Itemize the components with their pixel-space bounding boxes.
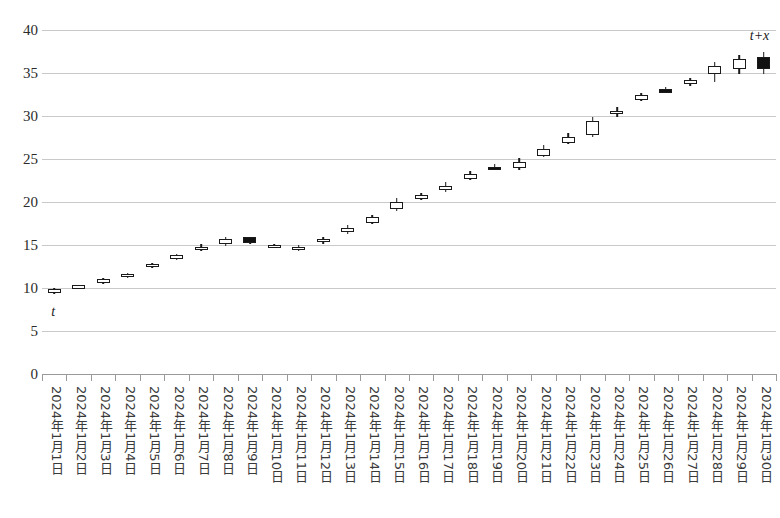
x-axis-tick-label: 2024年1月25日 [634, 386, 653, 483]
candlestick-body [48, 289, 61, 293]
x-axis-tickmark [703, 374, 704, 381]
candlestick-body [439, 186, 452, 190]
x-axis-tickmark [360, 374, 361, 381]
x-axis-tickmark [213, 374, 214, 381]
x-axis-tick-label: 2024年1月23日 [586, 386, 605, 483]
x-axis-tick-label: 2024年1月3日 [96, 386, 115, 475]
x-axis-tick-label: 2024年1月24日 [610, 386, 629, 483]
x-axis-tick-label: 2024年1月8日 [219, 386, 238, 475]
candlestick-body [219, 239, 232, 244]
candlestick-body [390, 202, 403, 209]
x-axis-tick-label: 2024年1月1日 [47, 386, 66, 475]
x-axis-tick-label: 2024年1月14日 [365, 386, 384, 483]
x-axis-tick-label: 2024年1月12日 [316, 386, 335, 483]
x-axis-tickmark [458, 374, 459, 381]
x-axis-tickmark [189, 374, 190, 381]
y-axis-tick-label: 25 [4, 152, 38, 167]
x-axis-tick-label: 2024年1月6日 [170, 386, 189, 475]
x-axis-tickmark [556, 374, 557, 381]
candlestick-body [684, 80, 697, 84]
candlestick-body [708, 66, 721, 74]
candlestick-body [72, 285, 85, 288]
candlestick-body [268, 245, 281, 248]
x-axis-tick-label: 2024年1月7日 [194, 386, 213, 475]
candlestick-body [170, 255, 183, 258]
x-axis-tick-label: 2024年1月20日 [512, 386, 531, 483]
candlestick-body [317, 239, 330, 242]
x-axis-tick-label: 2024年1月15日 [390, 386, 409, 483]
x-axis-tickmark [580, 374, 581, 381]
y-axis-tick-label: 40 [4, 23, 38, 38]
x-axis-tickmark [262, 374, 263, 381]
y-axis-tick-label: 0 [4, 367, 38, 382]
candlestick-body [562, 137, 575, 143]
y-axis-tick-label: 35 [4, 66, 38, 81]
x-axis-tickmark [752, 374, 753, 381]
x-axis-tick-label: 2024年1月26日 [659, 386, 678, 483]
chart-annotation: t [51, 304, 55, 320]
y-axis-tick-label: 30 [4, 109, 38, 124]
x-axis-tick-label: 2024年1月11日 [292, 386, 311, 483]
x-axis-tickmark [605, 374, 606, 381]
x-axis-tickmark [678, 374, 679, 381]
x-axis-tick-label: 2024年1月4日 [121, 386, 140, 475]
x-axis-tick-label: 2024年1月2日 [72, 386, 91, 475]
x-axis-tick-label: 2024年1月13日 [341, 386, 360, 483]
candlestick-body [488, 167, 501, 170]
candlestick-body [415, 195, 428, 198]
candlestick-body [464, 174, 477, 179]
x-axis-tickmark [238, 374, 239, 381]
x-axis-tick-label: 2024年1月17日 [439, 386, 458, 483]
y-axis-tick-label: 15 [4, 238, 38, 253]
x-axis-tick-label: 2024年1月28日 [708, 386, 727, 483]
x-axis-tickmark [287, 374, 288, 381]
candlestick-body [366, 217, 379, 222]
candlestick-body [292, 247, 305, 250]
candlestick-body [146, 264, 159, 267]
x-axis-tickmark [115, 374, 116, 381]
x-axis-tickmark [531, 374, 532, 381]
chart-annotation: t+x [750, 28, 770, 44]
x-axis-tickmark [66, 374, 67, 381]
candlestick-body [537, 149, 550, 156]
x-axis-tickmark [776, 374, 777, 381]
x-axis-tick-label: 2024年1月30日 [757, 386, 776, 483]
x-axis-tick-label: 2024年1月19日 [488, 386, 507, 483]
x-axis-tick-label: 2024年1月16日 [414, 386, 433, 483]
candlestick-body [757, 57, 770, 69]
x-axis-tickmark [336, 374, 337, 381]
x-axis-tickmark [482, 374, 483, 381]
x-axis-tick-label: 2024年1月9日 [243, 386, 262, 475]
x-axis-tickmark [140, 374, 141, 381]
y-axis-tick-label: 10 [4, 281, 38, 296]
candlestick-body [121, 274, 134, 277]
x-axis-tickmark [507, 374, 508, 381]
candlestick-chart: 05101520253035402024年1月1日2024年1月2日2024年1… [0, 0, 780, 518]
candlestick-body [195, 247, 208, 250]
x-axis-tick-label: 2024年1月10日 [267, 386, 286, 483]
x-axis-tickmark [42, 374, 43, 381]
x-axis-tick-label: 2024年1月21日 [537, 386, 556, 483]
x-axis-tick-label: 2024年1月29日 [732, 386, 751, 483]
candlestick-body [586, 121, 599, 135]
plot-area: 05101520253035402024年1月1日2024年1月2日2024年1… [0, 0, 780, 518]
candlestick-body [341, 228, 354, 232]
x-axis-tickmark [409, 374, 410, 381]
x-axis-tickmark [91, 374, 92, 381]
candlestick-body [733, 59, 746, 68]
candlestick-body [513, 162, 526, 168]
x-axis-tickmark [164, 374, 165, 381]
x-axis-tick-label: 2024年1月22日 [561, 386, 580, 483]
x-axis-tickmark [311, 374, 312, 381]
y-axis-tick-label: 5 [4, 324, 38, 339]
candlestick-body [97, 279, 110, 282]
y-axis-tick-label: 20 [4, 195, 38, 210]
x-axis-tick-label: 2024年1月27日 [683, 386, 702, 483]
x-axis-tickmark [629, 374, 630, 381]
x-axis-tickmark [385, 374, 386, 381]
x-axis-tickmark [433, 374, 434, 381]
candlestick-body [635, 95, 648, 100]
candlestick-body [610, 111, 623, 114]
x-axis-tickmark [654, 374, 655, 381]
x-axis-tick-label: 2024年1月18日 [463, 386, 482, 483]
